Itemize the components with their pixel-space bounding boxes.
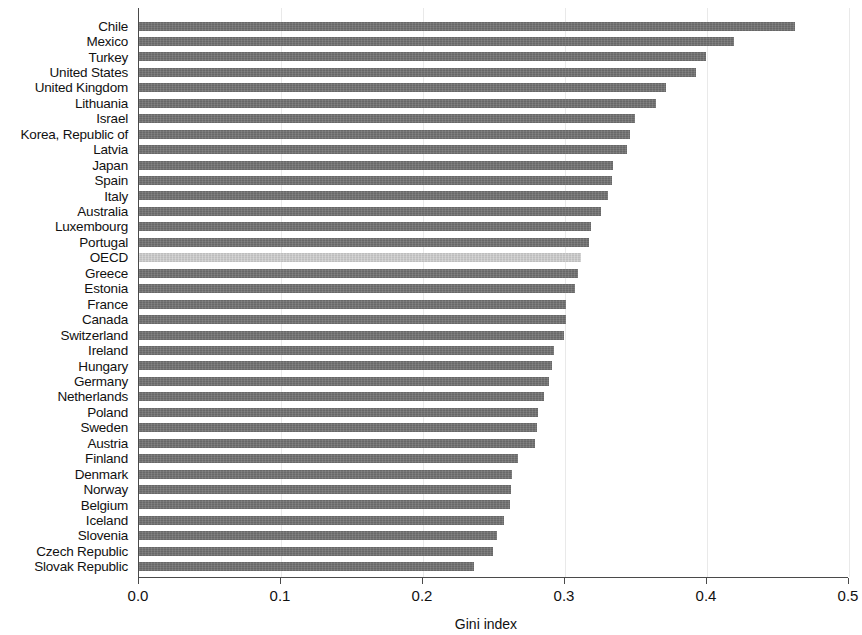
bar-iceland [139,516,504,525]
bar-fill [139,222,591,231]
category-label-spain: Spain [94,174,128,188]
x-tick-0.1 [280,578,281,584]
bar-fill [139,130,630,139]
bar-turkey [139,52,706,61]
category-label-sweden: Sweden [80,421,128,435]
bar-czech-republic [139,547,493,556]
bar-ireland [139,346,554,355]
category-label-turkey: Turkey [88,51,128,65]
category-label-latvia: Latvia [93,143,128,157]
bar-fill [139,284,575,293]
bar-fill [139,99,656,108]
bar-denmark [139,470,512,479]
bar-spain [139,176,612,185]
gridline-0.5 [849,8,850,577]
bar-fill [139,454,518,463]
bar-france [139,300,566,309]
category-label-netherlands: Netherlands [57,390,128,404]
x-tick-label-0.4: 0.4 [696,588,717,603]
bar-korea-republic-of [139,130,630,139]
bar-greece [139,269,578,278]
bar-israel [139,114,635,123]
category-label-japan: Japan [92,159,128,173]
bar-fill [139,423,537,432]
category-label-czech-republic: Czech Republic [36,545,128,559]
x-tick-0.4 [706,578,707,584]
bar-fill [139,176,612,185]
bar-fill [139,191,608,200]
bar-fill [139,346,554,355]
bar-poland [139,408,538,417]
bar-chile [139,22,795,31]
bar-slovak-republic [139,562,474,571]
bar-fill [139,315,566,324]
bar-latvia [139,145,627,154]
x-tick-label-0.3: 0.3 [554,588,575,603]
category-label-estonia: Estonia [84,282,128,296]
bar-oecd [139,253,581,262]
category-label-korea-republic-of: Korea, Republic of [21,128,128,142]
category-label-canada: Canada [82,313,128,327]
bar-fill [139,68,696,77]
category-label-israel: Israel [96,112,128,126]
x-tick-0.2 [422,578,423,584]
category-label-slovenia: Slovenia [78,529,128,543]
bar-fill [139,377,549,386]
x-tick-label-0.1: 0.1 [270,588,291,603]
bar-fill [139,547,493,556]
bar-fill [139,300,566,309]
bar-germany [139,377,549,386]
bar-fill [139,331,564,340]
bar-fill [139,470,512,479]
bar-fill [139,562,474,571]
category-label-oecd: OECD [90,251,128,265]
category-label-hungary: Hungary [78,360,128,374]
category-label-finland: Finland [85,452,128,466]
bar-fill [139,392,544,401]
category-label-ireland: Ireland [88,344,128,358]
category-label-iceland: Iceland [86,514,128,528]
plot-area [138,8,848,578]
bar-fill [139,83,666,92]
bar-sweden [139,423,537,432]
bar-fill [139,52,706,61]
category-label-united-kingdom: United Kingdom [35,81,128,95]
x-tick-0.0 [138,578,139,584]
bar-estonia [139,284,575,293]
bar-japan [139,161,613,170]
bar-fill [139,485,511,494]
bar-series [139,8,848,577]
category-label-slovak-republic: Slovak Republic [34,560,128,574]
category-label-poland: Poland [87,406,128,420]
bar-fill [139,22,795,31]
category-label-luxembourg: Luxembourg [55,220,128,234]
bar-fill [139,500,510,509]
category-label-portugal: Portugal [79,236,128,250]
bar-fill [139,145,627,154]
bar-mexico [139,37,734,46]
bar-hungary [139,361,552,370]
bar-united-kingdom [139,83,666,92]
bar-fill [139,207,601,216]
category-label-belgium: Belgium [81,499,128,513]
bar-united-states [139,68,696,77]
x-axis-title-text: Gini index [455,616,517,632]
category-axis-labels: ChileMexicoTurkeyUnited StatesUnited Kin… [0,8,134,578]
bar-fill [139,238,589,247]
bar-netherlands [139,392,544,401]
category-label-lithuania: Lithuania [75,97,128,111]
bar-luxembourg [139,222,591,231]
bar-fill [139,161,613,170]
bar-lithuania [139,99,656,108]
bar-portugal [139,238,589,247]
category-label-united-states: United States [50,66,128,80]
category-label-greece: Greece [85,267,128,281]
bar-fill [139,439,535,448]
bar-fill [139,269,578,278]
category-label-mexico: Mexico [86,35,128,49]
category-label-chile: Chile [98,20,128,34]
bar-austria [139,439,535,448]
bar-switzerland [139,331,564,340]
bar-norway [139,485,511,494]
x-axis-title: Gini index [0,616,862,632]
